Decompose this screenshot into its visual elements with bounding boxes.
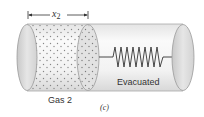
piston	[77, 25, 99, 91]
left-end-cap	[17, 25, 37, 91]
evacuated-label: Evacuated	[117, 78, 160, 87]
cylinder-diagram	[0, 0, 204, 117]
right-end-cap	[172, 25, 194, 91]
dimension-label: x2	[52, 9, 60, 21]
dimension-subscript: 2	[56, 12, 60, 21]
figure-caption: (c)	[100, 104, 109, 112]
gas-label: Gas 2	[48, 96, 72, 105]
